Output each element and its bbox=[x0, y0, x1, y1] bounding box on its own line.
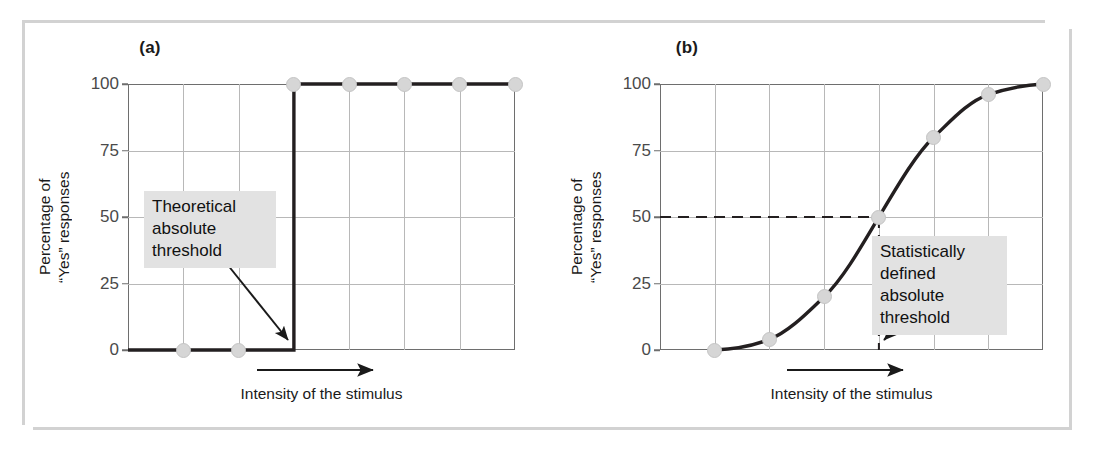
y-tick-label-75: 75 bbox=[100, 141, 119, 161]
panel-b-title: (b) bbox=[427, 38, 947, 58]
y-tick-label-50: 50 bbox=[100, 207, 119, 227]
y-tick-label-0: 0 bbox=[110, 340, 119, 360]
y-tick-label-25: 25 bbox=[632, 274, 651, 294]
panel-b-x-direction-arrow bbox=[785, 362, 920, 378]
panel-a: (a) Percentage of “Yes” responses 100 75… bbox=[0, 0, 520, 456]
panel-b-callout-label: Statistically defined absolute threshold bbox=[872, 236, 1007, 335]
panel-a-x-direction-arrow bbox=[255, 362, 390, 378]
panel-b-plot-area: 100 75 50 25 0 bbox=[660, 84, 1043, 350]
panel-b-y-axis-label: Percentage of “Yes” responses bbox=[568, 133, 610, 321]
panel-a-y-axis-label: Percentage of “Yes” responses bbox=[36, 133, 78, 321]
y-tick-label-75: 75 bbox=[632, 141, 651, 161]
panel-a-plot-area: 100 75 50 25 0 bbox=[128, 84, 515, 350]
y-tick-label-50: 50 bbox=[632, 207, 651, 227]
panel-b-x-axis-label: Intensity of the stimulus bbox=[660, 385, 1043, 403]
y-tick-label-25: 25 bbox=[100, 274, 119, 294]
panel-b: (b) Percentage of “Yes” responses 100 75… bbox=[532, 0, 1052, 456]
y-tick-label-100: 100 bbox=[623, 74, 651, 94]
y-tick-label-0: 0 bbox=[642, 340, 651, 360]
figure-root: (a) Percentage of “Yes” responses 100 75… bbox=[0, 0, 1097, 456]
y-tick-label-100: 100 bbox=[91, 74, 119, 94]
panel-a-x-axis-label: Intensity of the stimulus bbox=[128, 385, 515, 403]
panel-a-title: (a) bbox=[0, 38, 410, 58]
panel-a-callout-label: Theoretical absolute threshold bbox=[144, 191, 276, 268]
